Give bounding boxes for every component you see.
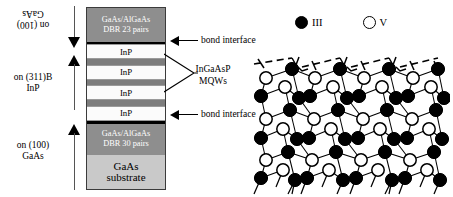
- legend-item-group-iii: III: [295, 16, 323, 29]
- figure-root: on (100) GaAs on (311)B InP on (100) GaA…: [0, 0, 453, 197]
- layer-inp-1: InP: [87, 44, 165, 59]
- growth-arrow-bottom: [68, 124, 81, 190]
- layer-inp-4: InP: [87, 106, 165, 122]
- arrow-shaft: [74, 133, 75, 190]
- callout-ingaasp-mqws: InGaAsP MQWs: [180, 64, 246, 87]
- filled-circle-icon: [295, 16, 308, 29]
- callout-label: bond interface: [201, 109, 256, 120]
- lattice-diagram: [252, 56, 450, 196]
- layer-label: InP: [120, 108, 132, 119]
- legend-label: V: [380, 17, 388, 28]
- layer-label: InP: [120, 47, 132, 58]
- layer-label: GaAs/AlGaAs DBR 30 pairs: [102, 129, 150, 150]
- growth-arrow-middle: [68, 55, 81, 110]
- arrow-shaft: [74, 6, 75, 39]
- layer-label: GaAs substrate: [106, 161, 145, 182]
- legend-label: III: [312, 17, 323, 28]
- callout-leader-line: [178, 114, 198, 115]
- orientation-label-middle: on (311)B InP: [2, 72, 64, 94]
- orientation-label-bottom: on (100) GaAs: [2, 140, 64, 162]
- orientation-label-top: on (100) GaAs: [2, 8, 64, 30]
- open-circle-icon: [363, 16, 376, 29]
- layer-label: GaAs/AlGaAs DBR 23 pairs: [102, 15, 150, 36]
- layer-inp-2: InP: [87, 65, 165, 80]
- layer-dbr-bottom: GaAs/AlGaAs DBR 30 pairs: [87, 124, 165, 155]
- arrow-head-down: [68, 37, 80, 48]
- layer-inp-3: InP: [87, 85, 165, 100]
- epitaxial-stack-diagram: GaAs/AlGaAs DBR 23 pairs InP InP InP InP…: [86, 7, 166, 190]
- callout-leader-line: [178, 40, 198, 41]
- growth-arrow-top: [68, 6, 81, 48]
- layer-gaas-substrate: GaAs substrate: [87, 155, 165, 189]
- layer-dbr-top: GaAs/AlGaAs DBR 23 pairs: [87, 8, 165, 42]
- arrow-shaft: [74, 64, 75, 110]
- callout-label: bond interface: [201, 35, 256, 46]
- legend-item-group-v: V: [363, 16, 388, 29]
- legend: III V: [295, 16, 387, 29]
- layer-label: InP: [120, 88, 132, 99]
- layer-label: InP: [120, 67, 132, 78]
